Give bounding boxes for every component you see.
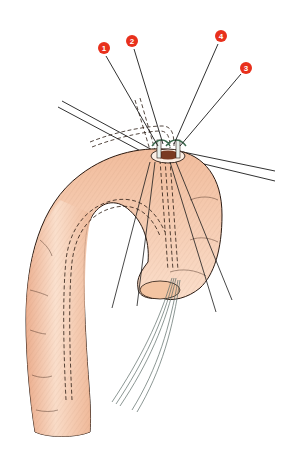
suture-left-lower xyxy=(58,107,152,157)
marker-4: 4 xyxy=(215,30,227,42)
marker-1: 1 xyxy=(98,42,110,54)
marker-2-label: 2 xyxy=(130,37,135,46)
aortic-arch-illustration: 1 2 3 4 xyxy=(0,0,298,466)
marker-4-label: 4 xyxy=(219,32,224,41)
aorta-vessel xyxy=(26,149,222,437)
aorta-distal-end xyxy=(140,281,180,299)
marker-2: 2 xyxy=(126,35,138,47)
marker-3: 3 xyxy=(240,62,252,74)
tourniquet-right xyxy=(176,140,180,158)
suture-lines xyxy=(106,44,241,146)
dashed-outline-upper xyxy=(90,98,174,150)
marker-3-label: 3 xyxy=(244,64,249,73)
marker-1-label: 1 xyxy=(102,44,107,53)
suture-line-4 xyxy=(174,44,218,144)
aorta-hatching xyxy=(26,149,222,437)
suture-left-upper xyxy=(62,101,156,152)
tourniquet-left xyxy=(157,140,161,158)
